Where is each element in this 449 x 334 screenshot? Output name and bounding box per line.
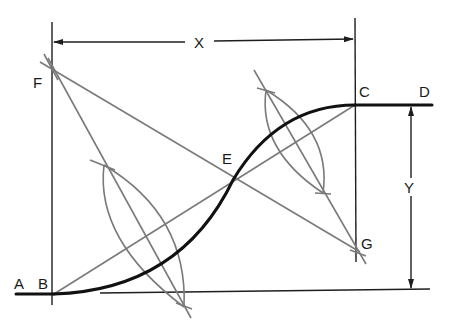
label-y: Y (404, 179, 414, 196)
bisector-line-left (48, 58, 191, 318)
tick-right-bottom (315, 193, 331, 194)
label-f: F (33, 74, 42, 91)
label-a: A (14, 275, 24, 292)
x-dimension-right-arrow (214, 39, 353, 41)
line-b-c (54, 105, 355, 294)
line-f-g (40, 62, 360, 252)
label-d: D (419, 83, 430, 100)
baseline (100, 289, 430, 293)
bisector-line-right (254, 70, 366, 264)
tick-left-top (90, 160, 115, 170)
label-b: B (38, 275, 48, 292)
ogee-curve-diagram: X Y A B F E C D G (0, 0, 449, 334)
label-x: X (194, 34, 204, 51)
tick-f (44, 54, 58, 80)
label-g: G (361, 235, 373, 252)
label-c: C (359, 83, 370, 100)
right-vertical-line (355, 18, 356, 262)
label-e: E (222, 150, 232, 167)
